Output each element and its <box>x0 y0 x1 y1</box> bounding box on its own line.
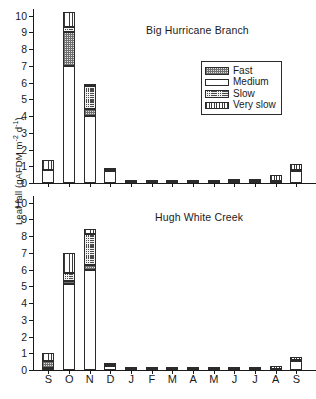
y-axis-tick-label: 4 <box>21 111 27 122</box>
bar-segment-very-slow <box>249 367 261 369</box>
y-axis-tick <box>29 32 33 33</box>
y-axis-tick-label: 2 <box>21 331 27 342</box>
bar-segment-very-slow <box>270 175 282 181</box>
x-axis-tick-label: J <box>232 374 238 385</box>
x-axis-tick <box>172 184 173 187</box>
swatch-medium-icon <box>205 79 229 87</box>
bar-segment-very-slow <box>187 367 199 369</box>
bar-segment-fast <box>42 361 54 369</box>
x-axis-tick-label: A <box>272 374 279 385</box>
y-axis-title-exp2: -1 <box>12 120 19 126</box>
y-axis-tick-label: 7 <box>21 248 27 259</box>
y-axis-tick <box>29 270 33 271</box>
bar-segment-very-slow <box>146 367 158 369</box>
y-axis-tick-label: 9 <box>21 27 27 38</box>
y-axis-tick <box>29 133 33 134</box>
legend-item: Medium <box>205 77 277 89</box>
x-axis-tick-label: S <box>45 374 52 385</box>
y-axis-tick-label: 5 <box>21 94 27 105</box>
bar-segment-very-slow <box>290 357 302 360</box>
y-axis-tick-label: 8 <box>21 44 27 55</box>
y-axis-tick-label: 6 <box>21 77 27 88</box>
bar-segment-medium <box>63 284 75 370</box>
bar-a-11 <box>270 175 282 183</box>
chart-panel-hugh-white-creek: 012345678910SONDJFMAMJJAS Hugh White Cre… <box>33 196 314 371</box>
y-axis-tick <box>29 49 33 50</box>
bar-segment-very-slow <box>270 366 282 369</box>
bar-m-6 <box>166 182 178 183</box>
y-axis-tick <box>29 16 33 17</box>
y-axis-tick-label: 9 <box>21 214 27 225</box>
legend-item-label: Fast <box>233 66 252 76</box>
y-axis-tick <box>29 183 33 184</box>
x-axis-tick <box>152 184 153 187</box>
x-axis-tick <box>296 184 297 187</box>
bar-segment-very-slow <box>228 367 240 369</box>
y-axis-tick-label: 5 <box>21 281 27 292</box>
bar-s-0 <box>42 353 54 370</box>
bar-segment-medium <box>42 170 54 183</box>
bar-o-1 <box>63 253 75 370</box>
x-axis-tick-label: F <box>148 374 155 385</box>
bar-j-4 <box>125 182 137 184</box>
x-axis-tick-label: S <box>293 374 300 385</box>
bar-n-2 <box>84 229 96 370</box>
x-axis-tick-label: D <box>106 374 114 385</box>
y-axis-tick <box>29 253 33 254</box>
x-axis-tick <box>131 184 132 187</box>
y-axis-tick-label: 6 <box>21 264 27 275</box>
x-axis-tick <box>234 184 235 187</box>
y-axis-tick-label: 0 <box>21 178 27 189</box>
bar-s-12 <box>290 164 302 183</box>
y-axis-tick <box>29 116 33 117</box>
x-axis-tick <box>69 184 70 187</box>
bar-segment-medium <box>104 171 116 183</box>
y-axis-line-bottom <box>33 196 34 371</box>
bar-j-10 <box>249 369 261 370</box>
bar-segment-very-slow <box>228 179 240 181</box>
bar-segment-very-slow <box>249 179 261 181</box>
legend-item: Slow <box>205 88 277 100</box>
y-axis-tick <box>29 353 33 354</box>
bar-segment-fast <box>63 32 75 65</box>
bar-segment-very-slow <box>42 353 54 361</box>
y-axis-tick <box>29 166 33 167</box>
y-axis-line-top <box>33 9 34 184</box>
legend-item-label: Medium <box>233 77 269 87</box>
bar-n-2 <box>84 85 96 183</box>
bar-segment-very-slow <box>208 367 220 369</box>
bar-a-11 <box>270 366 282 370</box>
bar-segment-very-slow <box>166 180 178 182</box>
bar-o-1 <box>63 12 75 183</box>
bar-segment-very-slow <box>166 367 178 369</box>
y-axis-tick <box>29 337 33 338</box>
x-axis-tick <box>193 184 194 187</box>
bar-segment-fast <box>63 281 75 284</box>
y-axis-tick <box>29 303 33 304</box>
y-axis-tick-label: 0 <box>21 365 27 376</box>
swatch-slow-icon <box>205 90 229 98</box>
bar-segment-very-slow <box>125 367 137 369</box>
x-axis-tick-label: M <box>168 374 177 385</box>
y-axis-tick <box>29 286 33 287</box>
bar-d-3 <box>104 168 116 183</box>
x-axis-line-top <box>33 183 316 184</box>
y-axis-tick-label: 4 <box>21 298 27 309</box>
y-axis-tick <box>29 99 33 100</box>
bar-segment-very-slow <box>104 168 116 170</box>
legend-item-label: Slow <box>233 89 255 99</box>
bar-segment-very-slow <box>63 12 75 27</box>
legend-item: Fast <box>205 65 277 77</box>
bar-a-7 <box>187 369 199 371</box>
bar-segment-medium <box>290 171 302 183</box>
bar-segment-very-slow <box>84 229 96 233</box>
y-axis-tick-label: 10 <box>15 10 27 21</box>
bar-segment-very-slow <box>84 84 96 86</box>
x-axis-tick-label: A <box>189 374 196 385</box>
y-axis-tick <box>29 370 33 371</box>
y-axis-tick <box>29 83 33 84</box>
swatch-fast-icon <box>205 67 229 75</box>
bar-segment-very-slow <box>104 363 116 365</box>
bar-segment-very-slow <box>208 180 220 182</box>
bar-segment-fast <box>84 109 96 116</box>
